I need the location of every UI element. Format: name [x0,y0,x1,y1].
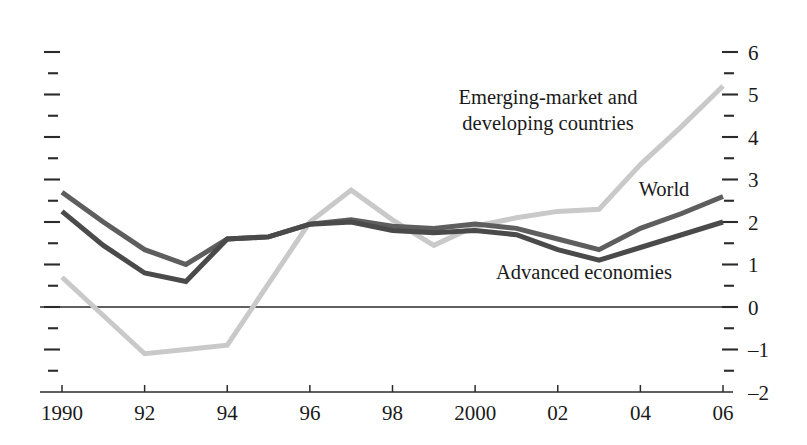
y-axis-label: 5 [748,83,759,107]
x-axis-label: 92 [134,401,155,425]
y-axis-label: –1 [747,338,769,362]
line-chart: 6543210–1–21990929496982000020406Emergin… [0,0,807,445]
emerging-label: developing countries [462,112,633,135]
y-axis-label: 6 [748,41,759,65]
y-axis-label: 0 [748,296,759,320]
x-axis-label: 96 [299,401,320,425]
y-axis-label: 1 [748,253,759,277]
y-axis-label: 3 [748,168,759,192]
y-axis-label: –2 [747,381,769,405]
x-axis-label: 02 [547,401,568,425]
y-axis-label: 2 [748,211,759,235]
x-axis-label: 06 [713,401,734,425]
x-axis-label: 04 [630,401,652,425]
x-axis-label: 94 [217,401,239,425]
chart-container: 6543210–1–21990929496982000020406Emergin… [0,0,807,445]
world-label: World [639,178,690,200]
y-axis-label: 4 [748,126,759,150]
x-axis-label: 2000 [454,401,496,425]
x-axis-label: 98 [382,401,403,425]
advanced-label: Advanced economies [496,261,672,283]
emerging-label: Emerging-market and [459,86,638,109]
x-axis-label: 1990 [41,401,83,425]
